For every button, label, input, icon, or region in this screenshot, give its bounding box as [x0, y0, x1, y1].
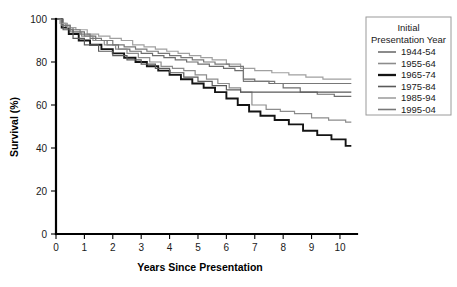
y-tick-label: 40 [36, 143, 48, 154]
y-tick-label: 80 [36, 57, 48, 68]
legend-label-1975-84: 1975-84 [401, 81, 436, 92]
x-tick-label: 0 [53, 242, 59, 253]
legend-label-1995-04: 1995-04 [401, 104, 436, 115]
legend-title-line-2: Presentation Year [371, 34, 446, 45]
survival-curve-1975-84 [56, 19, 351, 92]
y-tick-label: 20 [36, 186, 48, 197]
x-axis-title: Years Since Presentation [137, 261, 262, 273]
x-tick-label: 10 [334, 242, 346, 253]
legend-label-1965-74: 1965-74 [401, 69, 436, 80]
y-tick-label: 60 [36, 100, 48, 111]
x-axis-ticks: 012345678910 [53, 234, 346, 253]
survival-chart-figure: 020406080100 Survival (%) 012345678910 Y… [0, 0, 457, 287]
legend-label-1955-64: 1955-64 [401, 58, 436, 69]
x-tick-label: 8 [280, 242, 286, 253]
x-tick-label: 3 [138, 242, 144, 253]
y-axis: 020406080100 Survival (%) [8, 14, 56, 240]
legend: Initial Presentation Year 1944-541955-64… [366, 17, 451, 115]
x-tick-label: 9 [309, 242, 315, 253]
legend-title-line-1: Initial [397, 22, 419, 33]
y-axis-ticks: 020406080100 [30, 14, 56, 240]
x-axis: 012345678910 Years Since Presentation [53, 234, 357, 273]
survival-curve-1985-94 [56, 19, 351, 79]
x-tick-label: 7 [252, 242, 258, 253]
x-tick-label: 6 [224, 242, 230, 253]
chart-svg: 020406080100 Survival (%) 012345678910 Y… [0, 0, 457, 287]
x-tick-label: 4 [167, 242, 173, 253]
legend-label-1944-54: 1944-54 [401, 46, 436, 57]
legend-label-1985-94: 1985-94 [401, 92, 436, 103]
x-tick-label: 5 [195, 242, 201, 253]
x-tick-label: 1 [82, 242, 88, 253]
plot-area [56, 19, 351, 146]
y-axis-title: Survival (%) [8, 97, 20, 157]
x-tick-label: 2 [110, 242, 116, 253]
y-tick-label: 0 [41, 229, 47, 240]
survival-curves [56, 19, 351, 146]
survival-curve-1955-64 [56, 19, 351, 122]
y-tick-label: 100 [30, 14, 47, 25]
